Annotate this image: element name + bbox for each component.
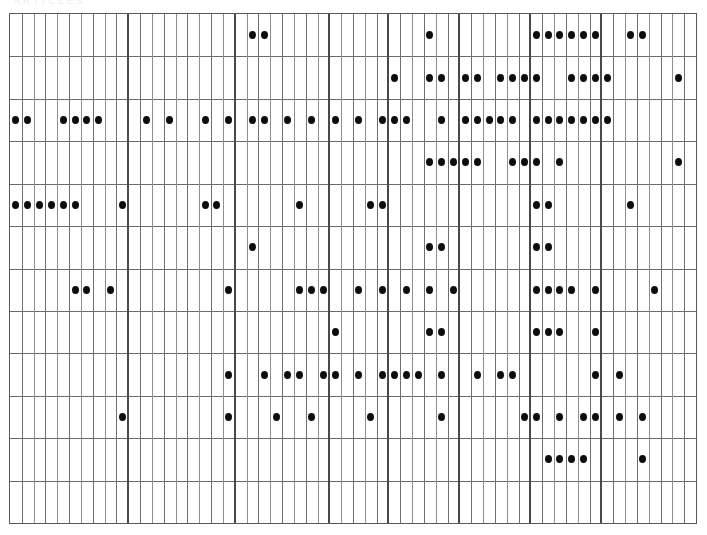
matrix-dot[interactable] bbox=[533, 74, 540, 82]
matrix-dot[interactable] bbox=[391, 116, 398, 124]
matrix-dot[interactable] bbox=[568, 455, 575, 463]
matrix-dot[interactable] bbox=[675, 74, 682, 82]
matrix-dot[interactable] bbox=[497, 371, 504, 379]
matrix-dot[interactable] bbox=[202, 201, 209, 209]
matrix-dot[interactable] bbox=[426, 31, 433, 39]
matrix-dot[interactable] bbox=[95, 116, 102, 124]
matrix-dot[interactable] bbox=[509, 158, 516, 166]
matrix-dot[interactable] bbox=[249, 243, 256, 251]
matrix-dot[interactable] bbox=[12, 201, 19, 209]
matrix-dot[interactable] bbox=[438, 158, 445, 166]
matrix-dot[interactable] bbox=[332, 116, 339, 124]
matrix-dot[interactable] bbox=[284, 371, 291, 379]
matrix-dot[interactable] bbox=[403, 116, 410, 124]
matrix-dot[interactable] bbox=[320, 371, 327, 379]
matrix-dot[interactable] bbox=[261, 371, 268, 379]
matrix-dot[interactable] bbox=[604, 116, 611, 124]
matrix-dot[interactable] bbox=[521, 158, 528, 166]
matrix-dot[interactable] bbox=[438, 74, 445, 82]
matrix-dot[interactable] bbox=[225, 116, 232, 124]
matrix-dot[interactable] bbox=[261, 31, 268, 39]
matrix-dot[interactable] bbox=[556, 116, 563, 124]
matrix-dot[interactable] bbox=[296, 201, 303, 209]
matrix-dot[interactable] bbox=[604, 74, 611, 82]
matrix-dot[interactable] bbox=[568, 31, 575, 39]
matrix-dot[interactable] bbox=[332, 371, 339, 379]
matrix-dot[interactable] bbox=[415, 371, 422, 379]
matrix-dot[interactable] bbox=[296, 371, 303, 379]
matrix-dot[interactable] bbox=[426, 158, 433, 166]
matrix-dot[interactable] bbox=[474, 158, 481, 166]
matrix-dot[interactable] bbox=[12, 116, 19, 124]
matrix-dot[interactable] bbox=[545, 328, 552, 336]
matrix-dot[interactable] bbox=[592, 413, 599, 421]
matrix-dot[interactable] bbox=[60, 201, 67, 209]
matrix-dot[interactable] bbox=[36, 201, 43, 209]
matrix-dot[interactable] bbox=[438, 413, 445, 421]
matrix-dot[interactable] bbox=[556, 286, 563, 294]
matrix-dot[interactable] bbox=[568, 116, 575, 124]
matrix-dot[interactable] bbox=[556, 31, 563, 39]
matrix-dot[interactable] bbox=[391, 74, 398, 82]
matrix-dot[interactable] bbox=[462, 158, 469, 166]
matrix-dot[interactable] bbox=[379, 201, 386, 209]
matrix-dot[interactable] bbox=[592, 371, 599, 379]
matrix-dot[interactable] bbox=[533, 328, 540, 336]
matrix-dot[interactable] bbox=[533, 286, 540, 294]
matrix-dot[interactable] bbox=[533, 31, 540, 39]
matrix-dot[interactable] bbox=[545, 116, 552, 124]
matrix-dot[interactable] bbox=[24, 201, 31, 209]
matrix-dot[interactable] bbox=[83, 116, 90, 124]
matrix-dot[interactable] bbox=[545, 201, 552, 209]
matrix-dot[interactable] bbox=[332, 328, 339, 336]
matrix-dot[interactable] bbox=[249, 116, 256, 124]
matrix-dot[interactable] bbox=[450, 158, 457, 166]
matrix-dot[interactable] bbox=[580, 31, 587, 39]
presence-matrix[interactable] bbox=[9, 13, 697, 524]
matrix-dot[interactable] bbox=[355, 371, 362, 379]
matrix-dot[interactable] bbox=[592, 286, 599, 294]
matrix-dot[interactable] bbox=[509, 371, 516, 379]
matrix-dot[interactable] bbox=[545, 243, 552, 251]
matrix-dot[interactable] bbox=[308, 286, 315, 294]
matrix-dot[interactable] bbox=[627, 31, 634, 39]
matrix-dot[interactable] bbox=[166, 116, 173, 124]
matrix-dot[interactable] bbox=[474, 116, 481, 124]
matrix-dot[interactable] bbox=[580, 455, 587, 463]
matrix-dot[interactable] bbox=[533, 243, 540, 251]
matrix-dot[interactable] bbox=[438, 328, 445, 336]
matrix-dot[interactable] bbox=[592, 328, 599, 336]
matrix-dot[interactable] bbox=[533, 201, 540, 209]
matrix-dot[interactable] bbox=[521, 74, 528, 82]
matrix-dot[interactable] bbox=[438, 371, 445, 379]
matrix-dot[interactable] bbox=[379, 116, 386, 124]
matrix-dot[interactable] bbox=[545, 31, 552, 39]
matrix-dot[interactable] bbox=[403, 371, 410, 379]
matrix-dot[interactable] bbox=[367, 413, 374, 421]
matrix-dot[interactable] bbox=[107, 286, 114, 294]
matrix-dot[interactable] bbox=[403, 286, 410, 294]
matrix-dot[interactable] bbox=[119, 413, 126, 421]
matrix-dot[interactable] bbox=[308, 116, 315, 124]
matrix-dot[interactable] bbox=[391, 371, 398, 379]
matrix-dot[interactable] bbox=[497, 116, 504, 124]
matrix-dot[interactable] bbox=[639, 455, 646, 463]
matrix-dot[interactable] bbox=[592, 116, 599, 124]
matrix-dot[interactable] bbox=[438, 116, 445, 124]
matrix-dot[interactable] bbox=[379, 371, 386, 379]
matrix-dot[interactable] bbox=[509, 116, 516, 124]
matrix-dot[interactable] bbox=[568, 286, 575, 294]
matrix-dot[interactable] bbox=[592, 74, 599, 82]
matrix-dot[interactable] bbox=[474, 74, 481, 82]
matrix-dot[interactable] bbox=[568, 74, 575, 82]
matrix-dot[interactable] bbox=[533, 158, 540, 166]
matrix-dot[interactable] bbox=[284, 116, 291, 124]
matrix-dot[interactable] bbox=[474, 371, 481, 379]
matrix-dot[interactable] bbox=[545, 455, 552, 463]
matrix-dot[interactable] bbox=[651, 286, 658, 294]
matrix-dot[interactable] bbox=[83, 286, 90, 294]
matrix-dot[interactable] bbox=[143, 116, 150, 124]
matrix-dot[interactable] bbox=[273, 413, 280, 421]
matrix-dot[interactable] bbox=[627, 201, 634, 209]
matrix-dot[interactable] bbox=[426, 74, 433, 82]
